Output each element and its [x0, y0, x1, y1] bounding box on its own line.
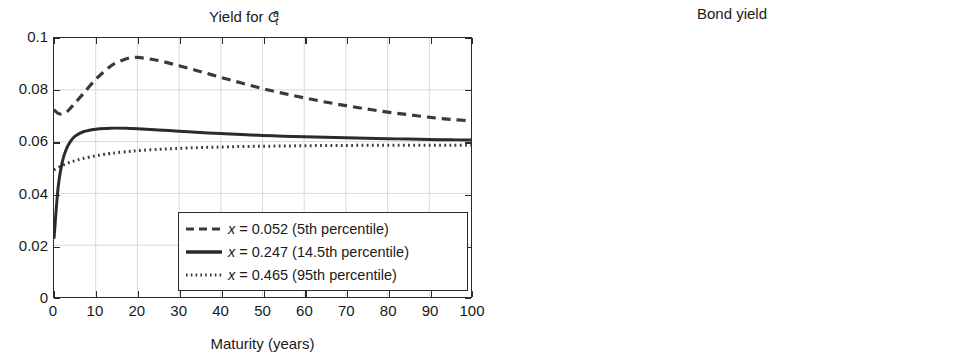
x-tick-mark: [264, 38, 265, 44]
x-tick-mark: [222, 38, 223, 44]
x-tick-label: 20: [128, 303, 145, 318]
x-tick-mark: [347, 38, 348, 44]
x-tick-mark: [54, 38, 55, 44]
legend-swatch-solid-icon: [185, 246, 223, 258]
y-tick-label: 0: [40, 290, 48, 305]
y-tick-label: 0.06: [19, 133, 48, 148]
x-tick-mark: [180, 38, 181, 44]
y-tick-mark: [54, 247, 60, 248]
x-tick-label: 70: [338, 303, 355, 318]
legend-eq-1: = 0.247 (14.5th percentile): [235, 244, 409, 260]
x-tick-label: 40: [212, 303, 229, 318]
y-tick-label: 0.1: [27, 29, 48, 44]
x-tick-mark: [472, 291, 473, 297]
y-tick-mark: [54, 142, 60, 143]
x-tick-mark: [96, 291, 97, 297]
y-tick-mark: [465, 298, 471, 299]
x-tick-label: 100: [459, 303, 484, 318]
x-tick-mark: [389, 38, 390, 44]
x-tick-label: 60: [296, 303, 313, 318]
legend-yield-ca: x = 0.052 (5th percentile) x = 0.247 (14…: [178, 212, 468, 291]
x-tick-mark: [305, 38, 306, 44]
legend-swatch-dashed-icon: [185, 223, 223, 235]
legend-label-2: x = 0.465 (95th percentile): [228, 267, 397, 283]
x-tick-mark: [138, 38, 139, 44]
x-tick-mark: [180, 291, 181, 297]
legend-item-1: x = 0.247 (14.5th percentile): [185, 241, 461, 263]
legend-swatch-dotted-icon: [185, 269, 223, 281]
panel-title-superscript: a: [273, 8, 279, 19]
x-tick-label: 10: [87, 303, 104, 318]
x-tick-mark: [472, 38, 473, 44]
x-tick-mark: [222, 291, 223, 297]
y-tick-label: 0.04: [19, 186, 48, 201]
x-tick-label: 80: [380, 303, 397, 318]
y-tick-mark: [54, 195, 60, 196]
panel-title-yield-ca: Yield for Cta: [0, 4, 488, 32]
y-tick-label: 0.08: [19, 81, 48, 96]
x-tick-label: 50: [254, 303, 271, 318]
panel-title-prefix: Yield for: [209, 8, 268, 25]
y-tick-mark: [465, 90, 471, 91]
x-tick-mark: [431, 38, 432, 44]
x-tick-mark: [138, 291, 139, 297]
y-tick-mark: [465, 142, 471, 143]
panel-title-bond-yield: Bond yield: [488, 4, 976, 24]
x-tick-mark: [347, 291, 348, 297]
legend-eq-0: = 0.052 (5th percentile): [235, 221, 389, 237]
x-tick-mark: [305, 291, 306, 297]
y-tick-mark: [54, 90, 60, 91]
x-tick-mark: [54, 291, 55, 297]
x-tick-mark: [264, 291, 265, 297]
legend-item-2: x = 0.465 (95th percentile): [185, 264, 461, 286]
y-tick-mark: [465, 195, 471, 196]
x-tick-mark: [96, 38, 97, 44]
panel-yield-ca: Yield for Cta 00.020.040.060.080.1 x = 0…: [0, 0, 488, 363]
x-tick-label: 30: [170, 303, 187, 318]
panel-bond-yield: Bond yield 00.020.040.060.080.1 01020304…: [488, 0, 976, 363]
legend-label-1: x = 0.247 (14.5th percentile): [228, 244, 409, 260]
y-axis-ticks-left: 00.020.040.060.080.1: [0, 37, 48, 298]
legend-eq-2: = 0.465 (95th percentile): [235, 267, 397, 283]
x-tick-label: 0: [49, 303, 57, 318]
figure-two-panel-yield-curves: Yield for Cta 00.020.040.060.080.1 x = 0…: [0, 0, 976, 363]
legend-label-0: x = 0.052 (5th percentile): [228, 221, 389, 237]
y-tick-mark: [54, 298, 60, 299]
x-tick-label: 90: [422, 303, 439, 318]
y-tick-label: 0.02: [19, 238, 48, 253]
x-tick-mark: [431, 291, 432, 297]
x-tick-mark: [389, 291, 390, 297]
x-axis-label-left: Maturity (years): [53, 335, 472, 353]
legend-item-0: x = 0.052 (5th percentile): [185, 218, 461, 240]
x-axis-ticks-left: 0102030405060708090100: [53, 303, 472, 323]
y-tick-mark: [465, 38, 471, 39]
